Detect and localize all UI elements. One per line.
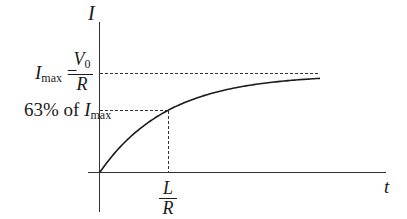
fraction-denominator: R <box>77 75 88 94</box>
percent-text: 63% of <box>24 99 84 120</box>
imax-subscript: max <box>41 71 62 85</box>
x-axis-label: t <box>384 176 389 198</box>
current-growth-curve <box>100 78 320 172</box>
time-constant-numerator: L <box>163 179 173 198</box>
percent-imax-subscript: max <box>90 108 111 122</box>
percent-label: 63% of Imax <box>24 99 111 123</box>
time-constant-denominator: R <box>163 199 174 218</box>
time-constant-fraction: L R <box>158 179 178 218</box>
fraction-numerator: V0 <box>74 50 91 74</box>
y-axis-label: I <box>88 2 95 25</box>
v0-over-r-fraction: V0 R <box>71 50 93 94</box>
